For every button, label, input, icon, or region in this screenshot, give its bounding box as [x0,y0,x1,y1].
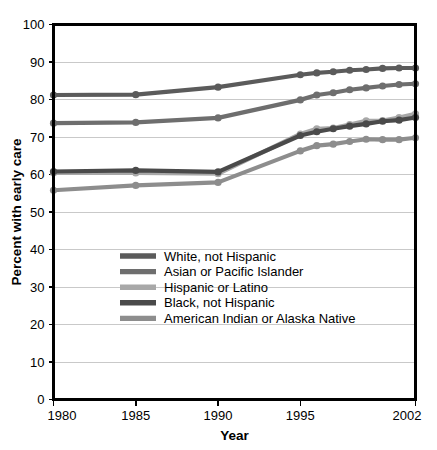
y-tick-label: 40 [30,242,44,257]
y-axis-title: Percent with early care [9,138,24,286]
y-tick-label: 90 [30,55,44,70]
x-tick-label: 1985 [121,408,150,423]
y-tick-label: 30 [30,280,44,295]
legend-label: American Indian or Alaska Native [164,311,355,326]
legend-label: Asian or Pacific Islander [164,264,304,279]
y-tick-label: 70 [30,130,44,145]
line-chart: 0102030405060708090100 19801985199019952… [0,0,437,450]
y-tick-label: 0 [37,392,44,407]
chart-container: 0102030405060708090100 19801985199019952… [0,0,437,450]
x-tick-label: 2002 [393,408,422,423]
legend-label: Hispanic or Latino [164,280,268,295]
y-tick-label: 20 [30,317,44,332]
legend-label: Black, not Hispanic [164,295,275,310]
x-tick-label: 1980 [48,408,77,423]
x-tick-label: 1990 [204,408,233,423]
y-tick-label: 100 [23,17,45,32]
x-axis-title: Year [220,428,249,443]
y-tick-label: 60 [30,167,44,182]
y-tick-label: 10 [30,355,44,370]
x-tick-label: 1995 [286,408,315,423]
y-tick-label: 50 [30,205,44,220]
legend-label: White, not Hispanic [164,249,276,264]
y-tick-label: 80 [30,92,44,107]
